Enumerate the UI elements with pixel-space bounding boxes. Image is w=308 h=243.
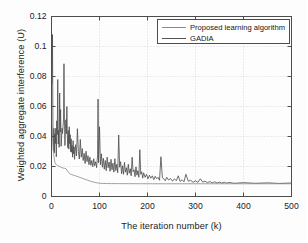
- x-axis-title: The iteration number (k): [51, 221, 292, 231]
- legend-label-gadia: GADIA: [190, 34, 214, 43]
- x-tick-label: 400: [224, 201, 264, 211]
- legend-line-swatch-gadia: [162, 34, 186, 42]
- legend-item-gadia: GADIA: [158, 32, 214, 44]
- x-tick-label: 500: [272, 201, 308, 211]
- x-tick-label: 300: [176, 201, 216, 211]
- chart-legend: Proposed learning algorithm GADIA: [157, 19, 290, 44]
- legend-line-swatch-proposed: [162, 23, 186, 31]
- y-axis-title: Weighted aggregate interference (U): [16, 29, 26, 181]
- x-tick-label: 100: [80, 201, 120, 211]
- legend-label-proposed: Proposed learning algorithm: [190, 23, 285, 32]
- x-tick-label: 0: [32, 201, 72, 211]
- x-tick-label: 200: [128, 201, 168, 211]
- figure-container: 00.020.040.060.080.10.12 010020030040050…: [0, 0, 307, 243]
- y-axis-title-wrapper: Weighted aggregate interference (U): [10, 5, 28, 205]
- series-line-proposed-learning-algorithm: [52, 127, 292, 184]
- data-series-layer: [52, 35, 292, 184]
- series-line-gadia: [52, 35, 292, 184]
